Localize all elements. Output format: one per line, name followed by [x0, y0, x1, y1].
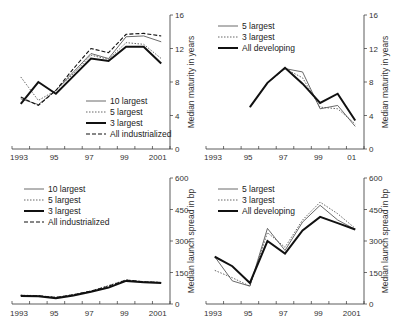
- y-tick-label: 8: [175, 78, 180, 87]
- series-line: [21, 33, 161, 105]
- series-line: [250, 68, 355, 121]
- x-tick-label: 1993: [204, 153, 222, 162]
- series-line: [21, 43, 161, 101]
- y-axis-label: Median launch spread in bp: [186, 189, 196, 294]
- legend-label: 3 largest: [110, 118, 143, 128]
- legend-label: 3 largest: [48, 206, 81, 216]
- y-tick-label: 8: [369, 78, 374, 87]
- x-tick-label: 95: [50, 153, 59, 162]
- y-tick-label: 16: [175, 11, 184, 20]
- x-tick-label: 1993: [10, 309, 28, 318]
- legend-label: All developing: [242, 43, 295, 53]
- y-axis-label: Median maturity in years: [380, 36, 390, 129]
- x-tick-label: 1993: [10, 153, 28, 162]
- legend-label: 5 largest: [48, 195, 81, 205]
- x-tick-label: 95: [244, 153, 253, 162]
- chart-panel-top-right: 1993959799010481216Median maturity in ye…: [204, 11, 390, 162]
- legend-label: 10 largest: [48, 184, 86, 194]
- legend-label: All developing: [242, 206, 295, 216]
- x-tick-label: 99: [314, 309, 323, 318]
- legend-label: 5 largest: [110, 107, 143, 117]
- legend-label: 3 largest: [242, 32, 275, 42]
- y-tick-label: 0: [175, 145, 180, 154]
- y-axis-label: Median maturity in years: [186, 36, 196, 129]
- legend-label: All industrialized: [48, 217, 110, 227]
- x-tick-label: 95: [50, 309, 59, 318]
- x-tick-label: 95: [244, 309, 253, 318]
- y-tick-label: 4: [175, 112, 180, 121]
- x-tick-label: 99: [314, 153, 323, 162]
- series-line: [21, 280, 161, 297]
- x-tick-label: 01: [347, 153, 356, 162]
- x-tick-label: 99: [120, 309, 129, 318]
- y-tick-label: 600: [369, 174, 383, 183]
- x-tick-label: 97: [85, 153, 94, 162]
- x-tick-label: 2001: [149, 153, 167, 162]
- chart-canvas: 199395979920010481216Median maturity in …: [0, 0, 396, 331]
- x-tick-label: 99: [120, 153, 129, 162]
- x-tick-label: 1993: [204, 309, 222, 318]
- y-tick-label: 0: [369, 145, 374, 154]
- y-tick-label: 4: [369, 112, 374, 121]
- series-line: [215, 205, 355, 286]
- legend-label: 10 largest: [110, 96, 148, 106]
- y-tick-label: 12: [175, 45, 184, 54]
- y-axis-label: Median launch spread in bp: [380, 189, 390, 294]
- legend-label: 5 largest: [242, 21, 275, 31]
- x-tick-label: 97: [279, 153, 288, 162]
- x-tick-label: 2001: [149, 309, 167, 318]
- y-tick-label: 600: [175, 174, 189, 183]
- y-tick-label: 12: [369, 45, 378, 54]
- legend-label: 5 largest: [242, 184, 275, 194]
- y-tick-label: 0: [369, 300, 374, 309]
- chart-panel-bottom-left: 199395979920010150300450600Median launch…: [10, 174, 196, 318]
- chart-panel-bottom-right: 199395979920010150300450600Median launch…: [204, 174, 390, 318]
- y-tick-label: 16: [369, 11, 378, 20]
- legend-label: All industrialized: [110, 129, 172, 139]
- x-tick-label: 97: [85, 309, 94, 318]
- x-tick-label: 2001: [343, 309, 361, 318]
- legend-label: 3 largest: [242, 195, 275, 205]
- chart-figure: 199395979920010481216Median maturity in …: [0, 0, 396, 331]
- x-tick-label: 97: [279, 309, 288, 318]
- chart-panel-top-left: 199395979920010481216Median maturity in …: [10, 11, 196, 162]
- y-tick-label: 0: [175, 300, 180, 309]
